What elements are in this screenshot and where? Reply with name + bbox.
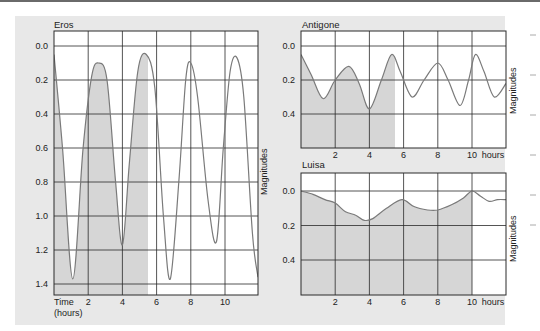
light-curve-figure: Eros 2468100.00.20.40.60.81.01.21.4 Time… xyxy=(0,0,540,331)
y-tick-label: 0.4 xyxy=(35,109,48,119)
x-tick-label: 2 xyxy=(333,297,338,307)
antigone-title: Antigone xyxy=(302,19,340,30)
y-tick-label: 0.2 xyxy=(35,75,48,85)
x-tick-label: 6 xyxy=(401,150,406,160)
eros-chart: Eros 2468100.00.20.40.60.81.01.21.4 Time… xyxy=(35,19,269,318)
luisa-xlabel: hours xyxy=(482,297,505,307)
luisa-plot-area: 2468100.00.20.4 xyxy=(282,173,506,307)
x-tick-label: 8 xyxy=(435,297,440,307)
x-tick-label: 4 xyxy=(120,297,125,307)
y-tick-label: 0.0 xyxy=(282,186,295,196)
y-tick-label: 1.4 xyxy=(35,279,48,289)
eros-title: Eros xyxy=(54,19,74,30)
y-tick-label: 0.8 xyxy=(35,177,48,187)
y-tick-label: 0.4 xyxy=(282,109,295,119)
x-tick-label: 4 xyxy=(367,297,372,307)
x-tick-label: 4 xyxy=(367,150,372,160)
x-tick-label: 2 xyxy=(333,150,338,160)
eros-ylabel: Magnitudes xyxy=(259,148,269,195)
antigone-xlabel: hours xyxy=(482,150,505,160)
antigone-ylabel: Magnitudes xyxy=(508,67,518,114)
luisa-chart: Luisa 2468100.00.20.4 hours Magnitudes xyxy=(282,159,518,307)
x-tick-label: 8 xyxy=(188,297,193,307)
y-tick-label: 1.2 xyxy=(35,245,48,255)
page-edge-marks xyxy=(528,20,540,320)
x-tick-label: 6 xyxy=(401,297,406,307)
antigone-chart: Antigone 2468100.00.20.4 hours Magnitude… xyxy=(282,19,518,160)
x-tick-label: 8 xyxy=(435,150,440,160)
x-tick-label: 2 xyxy=(86,297,91,307)
x-tick-label: 10 xyxy=(467,297,477,307)
y-tick-label: 0.0 xyxy=(35,41,48,51)
luisa-ylabel: Magnitudes xyxy=(508,215,518,262)
eros-xlabel-hours: (hours) xyxy=(54,308,83,318)
luisa-title: Luisa xyxy=(302,159,325,170)
x-tick-label: 10 xyxy=(220,297,230,307)
eros-xlabel-time: Time xyxy=(54,297,74,307)
x-tick-label: 6 xyxy=(154,297,159,307)
y-tick-label: 0.2 xyxy=(282,75,295,85)
eros-plot-area: 2468100.00.20.40.60.81.01.21.4 xyxy=(35,31,258,307)
y-tick-label: 0.2 xyxy=(282,221,295,231)
y-tick-label: 0.0 xyxy=(282,41,295,51)
y-tick-label: 1.0 xyxy=(35,211,48,221)
antigone-plot-area: 2468100.00.20.4 xyxy=(282,31,506,160)
x-tick-label: 10 xyxy=(467,150,477,160)
y-tick-label: 0.6 xyxy=(35,143,48,153)
y-tick-label: 0.4 xyxy=(282,255,295,265)
